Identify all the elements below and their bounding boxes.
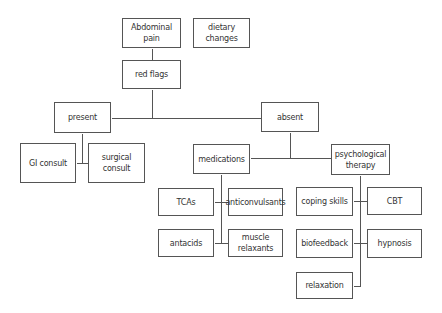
node-label: hypnosis	[378, 238, 412, 249]
node-label: medications	[198, 154, 245, 165]
node-label: GI consult	[29, 158, 67, 169]
node-muscle-relaxants: muscle relaxants	[228, 229, 283, 257]
node-absent: absent	[261, 102, 319, 132]
node-label: relaxation	[305, 280, 343, 291]
node-label: dietary changes	[196, 22, 247, 44]
node-gi-consult: GI consult	[20, 143, 76, 183]
node-label: Abdominal pain	[125, 22, 178, 44]
node-label: red flags	[135, 69, 168, 80]
node-dietary-changes: dietary changes	[193, 18, 250, 48]
node-present: present	[54, 102, 111, 133]
node-relaxation: relaxation	[296, 272, 353, 299]
node-cbt: CBT	[367, 187, 422, 215]
node-abdominal-pain: Abdominal pain	[122, 18, 181, 48]
node-surgical-consult: surgical consult	[88, 143, 145, 183]
node-biofeedback: biofeedback	[296, 229, 353, 258]
node-tcas: TCAs	[158, 188, 214, 216]
node-label: coping skills	[301, 196, 347, 207]
node-label: psychological therapy	[335, 149, 387, 171]
node-antacids: antacids	[158, 229, 214, 257]
node-label: biofeedback	[301, 238, 348, 249]
node-label: antacids	[170, 238, 202, 249]
node-red-flags: red flags	[122, 60, 181, 89]
node-anticonvulsants: anticonvulsants	[228, 188, 283, 216]
node-medications: medications	[193, 144, 250, 174]
node-label: anticonvulsants	[225, 197, 285, 208]
node-hypnosis: hypnosis	[367, 229, 422, 258]
node-label: absent	[277, 112, 303, 123]
node-psychological-therapy: psychological therapy	[331, 144, 390, 175]
node-label: TCAs	[177, 197, 196, 208]
node-label: present	[68, 112, 97, 123]
flowchart-canvas: Abdominal pain dietary changes red flags…	[0, 0, 442, 313]
node-label: muscle relaxants	[238, 232, 273, 254]
node-label: CBT	[387, 196, 402, 207]
node-coping-skills: coping skills	[296, 187, 353, 216]
node-label: surgical consult	[91, 152, 142, 174]
